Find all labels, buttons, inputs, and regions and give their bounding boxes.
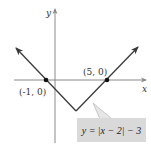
point-label-neg1-0: (-1, 0) bbox=[19, 87, 46, 97]
callout-pointer bbox=[93, 103, 112, 119]
x-axis-label: x bbox=[142, 84, 147, 94]
y-axis-label: y bbox=[45, 8, 52, 18]
point-5-0 bbox=[105, 78, 110, 83]
equation-label: y = |x − 2| − 3 bbox=[81, 125, 142, 136]
absolute-value-graph: x y y = |x − 2| − 3 (-1, 0) (5, 0) bbox=[0, 0, 151, 156]
point-label-5-0: (5, 0) bbox=[83, 67, 107, 77]
point-neg1-0 bbox=[44, 78, 49, 83]
